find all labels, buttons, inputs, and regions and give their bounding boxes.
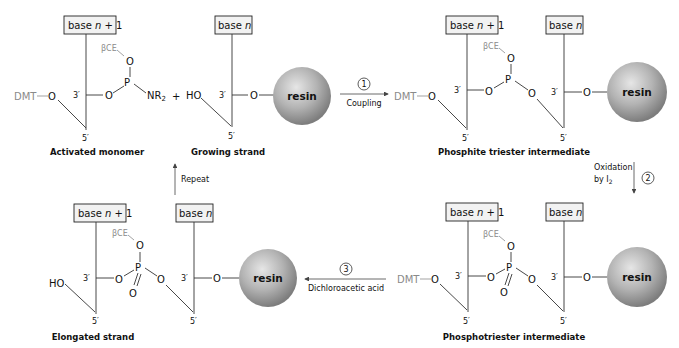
oxygen-label: O	[583, 272, 591, 283]
activated-monomer-caption: Activated monomer	[50, 147, 145, 157]
resin-bead: resin	[239, 249, 297, 307]
step-label: Oxidation	[594, 163, 633, 172]
elongated-strand: HO base n + 1 3′ O P O βCE O O 5′ base n…	[49, 204, 297, 342]
oxygen-label: O	[500, 287, 508, 298]
plus-sign: +	[172, 91, 180, 102]
three-prime-label: 3′	[219, 91, 226, 100]
svg-text:base n + 1: base n + 1	[450, 20, 504, 31]
resin-bead: resin	[607, 247, 667, 307]
svg-text:base n: base n	[549, 207, 582, 218]
oxygen-label: O	[485, 86, 493, 97]
base-n-box: base n	[176, 204, 213, 222]
step-1-coupling-arrow: 1 Coupling	[340, 78, 388, 108]
step-label: Coupling	[346, 99, 381, 108]
oxygen-label: O	[129, 288, 137, 299]
svg-text:resin: resin	[622, 271, 652, 283]
svg-text:resin: resin	[622, 86, 652, 98]
three-prime-label: 3′	[551, 273, 558, 282]
step-label-line2: by I2	[594, 175, 613, 185]
base-n-plus-1-box: base n + 1	[64, 16, 122, 34]
phosphorus-label: P	[506, 262, 512, 273]
base-n-plus-1-box: base n + 1	[446, 203, 504, 221]
repeat-label: Repeat	[181, 175, 209, 184]
three-prime-label: 3′	[455, 272, 462, 281]
svg-text:base n + 1: base n + 1	[68, 20, 122, 31]
phosphorus-label: P	[135, 262, 141, 273]
five-prime-label: 5′	[228, 132, 235, 141]
phosphorus-label: P	[124, 77, 130, 88]
oxygen-label: O	[105, 90, 113, 101]
oxygen-label: O	[126, 56, 134, 67]
phosphotriester-caption: Phosphotriester intermediate	[443, 332, 586, 342]
base-n-box: base n	[546, 203, 583, 221]
step-2-oxidation-arrow: Oxidation by I2 2	[594, 162, 654, 193]
nr2-label: NR2	[147, 90, 166, 103]
repeat-arrow: Repeat	[175, 164, 209, 195]
svg-text:base n: base n	[549, 20, 582, 31]
oxygen-label: O	[428, 91, 436, 102]
oxygen-label: O	[528, 274, 536, 285]
oxygen-label: O	[507, 241, 515, 252]
three-prime-label: 3′	[83, 274, 90, 283]
activated-monomer: base n + 1 3′ O P O βCE NR2 DMT O 5′ Act…	[14, 16, 166, 157]
five-prime-label: 5′	[560, 134, 567, 143]
svg-text:base n + 1: base n + 1	[78, 208, 132, 219]
step-3-deprotection-arrow: 3 Dichloroacetic acid	[305, 263, 386, 293]
three-prime-label: 3′	[73, 91, 80, 100]
oxygen-label: O	[431, 274, 439, 285]
oxygen-label: O	[507, 53, 515, 64]
oxygen-label: O	[213, 273, 221, 284]
phosphorus-label: P	[505, 74, 511, 85]
five-prime-label: 5′	[92, 317, 99, 326]
resin-bead: resin	[607, 62, 667, 122]
svg-text:base n + 1: base n + 1	[450, 207, 504, 218]
phosphite-triester-intermediate: DMT O base n + 1 3′ O P O βCE O 5′ base …	[394, 16, 667, 157]
elongated-strand-caption: Elongated strand	[52, 332, 135, 342]
base-n-plus-1-box: base n + 1	[74, 204, 132, 222]
step-number: 1	[361, 80, 366, 89]
svg-text:base n: base n	[179, 208, 212, 219]
oxygen-label: O	[583, 87, 591, 98]
beta-ce-label: βCE	[112, 229, 128, 238]
step-number: 3	[343, 265, 348, 274]
five-prime-label: 5′	[82, 134, 89, 143]
oxygen-label: O	[157, 274, 165, 285]
growing-strand-caption: Growing strand	[191, 147, 265, 157]
base-n-box: base n	[546, 16, 583, 34]
dmt-label: DMT	[14, 91, 37, 102]
oxygen-label: O	[487, 272, 495, 283]
three-prime-label: 3′	[551, 88, 558, 97]
oxygen-label: O	[136, 240, 144, 251]
hydroxyl-label: HO	[186, 90, 202, 101]
three-prime-label: 3′	[454, 86, 461, 95]
step-number: 2	[645, 174, 650, 183]
five-prime-label: 5′	[462, 134, 469, 143]
five-prime-label: 5′	[463, 317, 470, 326]
dmt-label: DMT	[394, 91, 417, 102]
growing-strand: HO base n 3′ O 5′ resin Growing strand	[186, 16, 331, 157]
oxygen-label: O	[250, 90, 258, 101]
oxygen-label: O	[48, 91, 56, 102]
resin-bead: resin	[273, 67, 331, 125]
five-prime-label: 5′	[190, 317, 197, 326]
oxygen-label: O	[528, 88, 536, 99]
phosphotriester-intermediate: DMT O base n + 1 3′ O P O βCE O O 5′ bas…	[397, 203, 667, 342]
beta-ce-label: βCE	[483, 230, 499, 239]
hydroxyl-label: HO	[49, 278, 65, 289]
step-label: Dichloroacetic acid	[308, 284, 384, 293]
beta-ce-label: βCE	[101, 44, 117, 53]
five-prime-label: 5′	[560, 317, 567, 326]
three-prime-label: 3′	[181, 274, 188, 283]
oxygen-label: O	[115, 274, 123, 285]
svg-text:base n: base n	[218, 20, 251, 31]
beta-ce-label: βCE	[483, 42, 499, 51]
phosphite-triester-caption: Phosphite triester intermediate	[438, 147, 590, 157]
svg-text:resin: resin	[253, 272, 283, 284]
base-n-plus-1-box: base n + 1	[446, 16, 504, 34]
svg-text:resin: resin	[287, 90, 317, 102]
base-n-box: base n	[215, 16, 252, 34]
dmt-label: DMT	[397, 274, 420, 285]
oligonucleotide-synthesis-diagram: base n + 1 3′ O P O βCE NR2 DMT O 5′ Act…	[0, 0, 679, 348]
